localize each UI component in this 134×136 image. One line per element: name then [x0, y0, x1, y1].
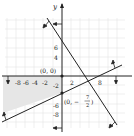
- svg-text:-6: -6: [53, 102, 59, 109]
- intercept-point: [60, 91, 63, 94]
- svg-text:-4: -4: [32, 79, 38, 86]
- svg-text:4: 4: [54, 54, 58, 61]
- svg-text:-2: -2: [53, 82, 59, 89]
- svg-text:8: 8: [98, 79, 102, 86]
- y-axis-arrow-icon: [60, 3, 64, 8]
- intercept-label: (0, − 7 2 ): [64, 94, 93, 108]
- arrow-icon: [112, 60, 115, 64]
- origin-label: (0, 0): [40, 67, 56, 74]
- origin-point: [60, 74, 63, 77]
- svg-text:7: 7: [86, 94, 89, 100]
- svg-text:-6: -6: [23, 79, 29, 86]
- svg-text:2: 2: [86, 102, 89, 108]
- arrow-left-icon: [53, 127, 57, 130]
- svg-text:6: 6: [54, 44, 58, 51]
- inequality-graph: y: [0, 0, 134, 136]
- arrow-icon: [3, 112, 6, 116]
- svg-text:(0, −: (0, −: [64, 98, 79, 105]
- svg-text:-8: -8: [53, 111, 59, 118]
- y-axis-label: y: [52, 3, 58, 11]
- svg-text:-8: -8: [15, 79, 21, 86]
- arrow-left-icon: [53, 23, 57, 26]
- svg-text:2: 2: [70, 79, 74, 86]
- svg-text:): ): [91, 98, 93, 105]
- svg-text:-2: -2: [42, 79, 48, 86]
